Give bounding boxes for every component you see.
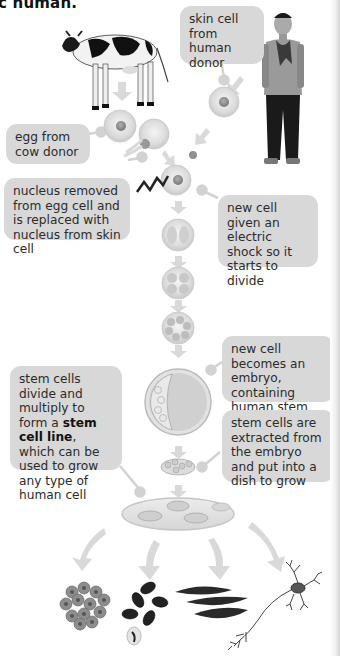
muscle-cells xyxy=(175,586,248,618)
cell-8-stage xyxy=(162,312,194,344)
nerve-cell xyxy=(228,560,322,650)
page-edge-shadow xyxy=(330,0,340,656)
extracted-stem-cells xyxy=(161,459,195,475)
label-egg-cow-donor: egg from cow donor xyxy=(6,124,90,164)
white-blood-cell xyxy=(127,627,141,645)
petri-dish xyxy=(122,498,234,530)
label-nucleus-replaced: nucleus removed from egg cell and is rep… xyxy=(4,178,130,240)
label-stem-cells-extracted: stem cells are extracted from the embryo… xyxy=(222,410,334,482)
human-donor-image xyxy=(262,13,304,164)
cell-4-stage xyxy=(162,267,194,299)
skin-cell xyxy=(209,87,239,117)
blastocyst xyxy=(145,369,211,435)
label-stem-cell-line: stem cells divide and multiply to form a… xyxy=(10,366,122,470)
red-blood-cells xyxy=(122,580,169,628)
diagram-graphics xyxy=(0,0,340,656)
cow-egg-cell xyxy=(104,110,136,142)
label-electric-shock: new cell given an electric shock so it s… xyxy=(218,195,318,267)
label-skin-cell: skin cell from human donor xyxy=(180,6,264,64)
label-embryo: new cell becomes an embryo, containing h… xyxy=(222,336,334,402)
cell-2-stage xyxy=(162,219,194,251)
skin-nucleus xyxy=(189,151,197,159)
cow-image xyxy=(62,31,168,110)
